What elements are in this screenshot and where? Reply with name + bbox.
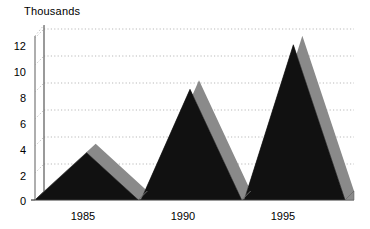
depth-tick-6: [35, 110, 44, 119]
depth-tick-8: [35, 83, 44, 92]
depth-tick-10: [35, 56, 44, 65]
chart-container: Thousands 12 10 8 6 4 2 0 1985 1990 1995: [0, 0, 370, 229]
series-area-front-face: [35, 45, 345, 200]
depth-tick-2: [35, 164, 44, 173]
depth-tick-4: [35, 137, 44, 146]
chart-plot-area: [0, 0, 370, 229]
series-area-group: [35, 36, 354, 200]
